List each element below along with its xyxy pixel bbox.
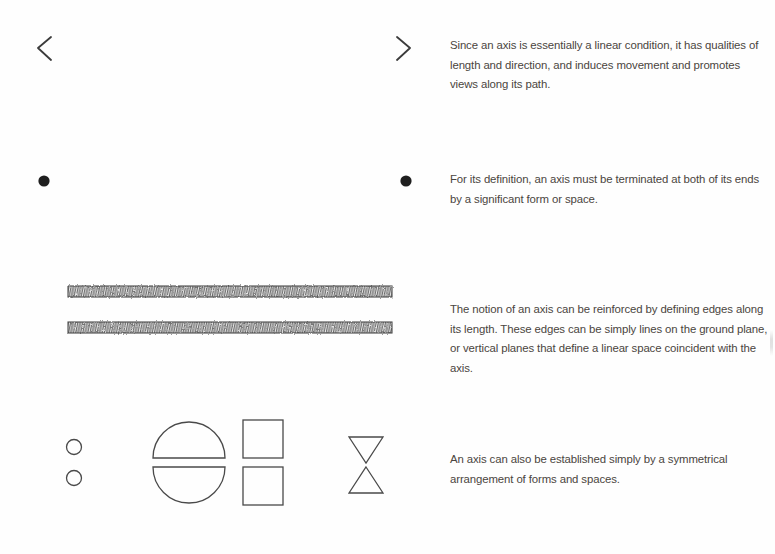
form-circle-upper [67, 440, 82, 455]
caption-axis-terminated-ends: For its definition, an axis must be term… [450, 170, 768, 209]
axis-terminus-dot-right [400, 175, 411, 186]
caption-text: For its definition, an axis must be term… [450, 170, 768, 209]
form-circle-lower [67, 471, 82, 486]
terminated-axis-diagram [0, 160, 440, 206]
form-square-lower [243, 467, 283, 505]
edge-band-lower [68, 322, 392, 333]
edge-band-upper [68, 286, 392, 297]
form-semicircle-lower [153, 467, 225, 503]
form-triangle-upper [349, 437, 383, 463]
axis-terminus-dot-left [38, 175, 49, 186]
caption-axis-reinforced-edges: The notion of an axis can be reinforced … [450, 300, 768, 378]
edged-axis-diagram [0, 282, 440, 344]
form-semicircle-upper [153, 422, 225, 458]
symmetrical-forms-diagram [0, 415, 440, 525]
page-canvas: Since an axis is essentially a linear co… [0, 0, 775, 554]
scan-edge-artifact [770, 330, 773, 356]
double-headed-arrow-diagram [0, 20, 440, 80]
caption-text: An axis can also be established simply b… [450, 450, 768, 489]
form-square-upper [243, 420, 283, 458]
caption-text: The notion of an axis can be reinforced … [450, 300, 768, 378]
caption-axis-linear-condition: Since an axis is essentially a linear co… [450, 36, 768, 95]
caption-text: Since an axis is essentially a linear co… [450, 36, 768, 95]
caption-axis-symmetrical-arrangement: An axis can also be established simply b… [450, 450, 768, 489]
form-triangle-lower [349, 467, 383, 493]
